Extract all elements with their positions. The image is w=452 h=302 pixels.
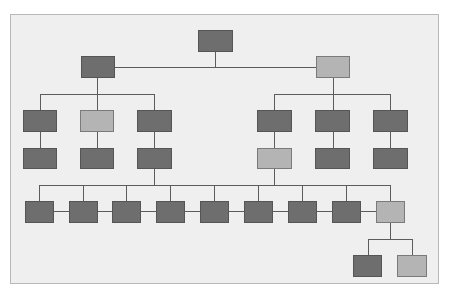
node-l4-9[interactable] — [376, 201, 405, 223]
connector — [274, 169, 275, 185]
node-root[interactable] — [198, 30, 233, 52]
node-l5-2[interactable] — [397, 255, 427, 277]
connector — [390, 185, 391, 201]
node-l2-a[interactable] — [23, 110, 57, 132]
connector — [154, 132, 155, 148]
connector — [274, 132, 275, 148]
node-l4-2[interactable] — [69, 201, 98, 223]
connector — [40, 132, 41, 148]
node-l4-4[interactable] — [156, 201, 185, 223]
connector — [333, 132, 334, 148]
node-l3-f[interactable] — [373, 148, 408, 169]
connector — [214, 185, 215, 201]
connector — [274, 94, 391, 95]
connector — [215, 51, 216, 67]
connector — [39, 185, 40, 201]
connector — [258, 185, 259, 201]
connector — [390, 132, 391, 148]
connector — [274, 94, 275, 110]
connector — [154, 94, 155, 110]
node-l3-a[interactable] — [23, 148, 57, 169]
node-l4-1[interactable] — [25, 201, 54, 223]
connector — [83, 185, 84, 201]
connector — [390, 94, 391, 110]
connector — [154, 169, 155, 185]
node-l4-7[interactable] — [288, 201, 317, 223]
node-l4-3[interactable] — [112, 201, 141, 223]
node-l5-1[interactable] — [353, 255, 382, 277]
node-l4-8[interactable] — [332, 201, 361, 223]
node-l2-b[interactable] — [80, 110, 114, 132]
connector — [170, 185, 171, 201]
node-l3-d[interactable] — [257, 148, 292, 169]
node-l2-d[interactable] — [257, 110, 292, 132]
node-l1-right[interactable] — [316, 56, 350, 78]
connector — [368, 239, 369, 255]
node-l4-5[interactable] — [200, 201, 229, 223]
connector — [97, 132, 98, 148]
connector — [40, 94, 41, 110]
node-l1-left[interactable] — [81, 56, 115, 78]
connector — [39, 185, 391, 186]
connector — [126, 185, 127, 201]
node-l3-b[interactable] — [80, 148, 114, 169]
connector — [368, 239, 413, 240]
connector — [412, 239, 413, 255]
connector — [390, 222, 391, 239]
node-l3-e[interactable] — [315, 148, 350, 169]
node-l2-c[interactable] — [137, 110, 172, 132]
connector — [114, 67, 316, 68]
connector — [40, 94, 155, 95]
connector — [302, 185, 303, 201]
node-l3-c[interactable] — [137, 148, 172, 169]
node-l2-e[interactable] — [315, 110, 350, 132]
node-l4-6[interactable] — [244, 201, 273, 223]
node-l2-f[interactable] — [373, 110, 408, 132]
connector — [346, 185, 347, 201]
